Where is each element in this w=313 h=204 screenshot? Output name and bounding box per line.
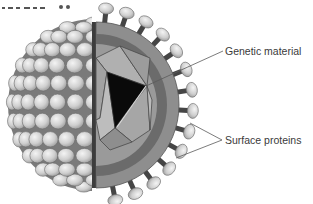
protein-head [21, 94, 35, 110]
protein-head [187, 103, 199, 119]
protein-head [45, 163, 61, 176]
protein-head [76, 132, 93, 147]
label-genetic-material: Genetic material [225, 45, 301, 57]
protein-head [67, 113, 84, 129]
protein-head [76, 148, 93, 163]
protein-head [58, 148, 75, 163]
protein-head [22, 113, 36, 129]
virus-diagram [0, 0, 313, 204]
protein-head [34, 94, 49, 110]
protein-head [67, 30, 84, 43]
protein-head [173, 142, 190, 160]
protein-head [36, 75, 51, 91]
protein-head [51, 30, 67, 43]
label-surface-proteins: Surface proteins [225, 134, 301, 146]
protein-head [59, 43, 76, 57]
cutaway-right-half [96, 2, 199, 204]
protein-head [44, 43, 60, 57]
protein-head [68, 75, 85, 91]
protein-head [51, 75, 67, 91]
protein-head [34, 58, 49, 73]
protein-head [49, 94, 65, 110]
protein-head [29, 132, 44, 147]
protein-head [49, 58, 65, 73]
protein-head [98, 2, 114, 15]
protein-head [67, 94, 84, 110]
protein-head [58, 132, 75, 147]
protein-head [76, 43, 93, 57]
protein-head [50, 113, 66, 129]
protein-head [59, 163, 76, 176]
protein-head [107, 193, 124, 204]
protein-head [42, 132, 58, 147]
protein-head [42, 148, 58, 163]
protein-head [118, 5, 136, 20]
protein-head [178, 60, 194, 78]
protein-head [66, 58, 83, 73]
protein-head [35, 113, 50, 129]
protein-head [126, 186, 144, 202]
protein-head [185, 82, 198, 99]
protein-head [76, 163, 93, 176]
